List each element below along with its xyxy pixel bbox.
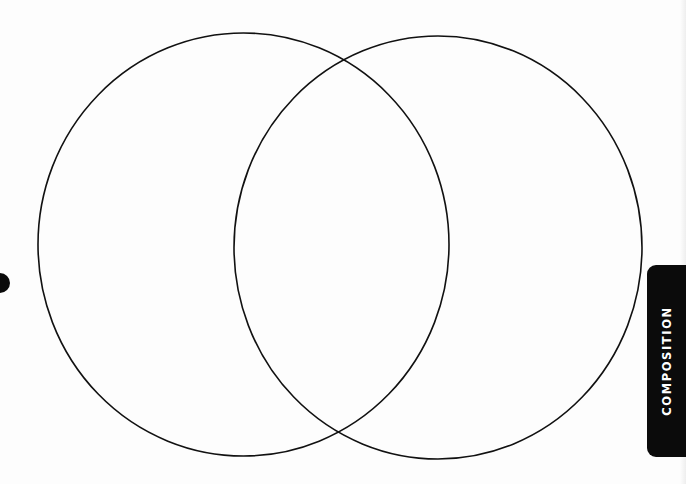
venn-diagram <box>0 0 686 484</box>
page-edge-shadow <box>680 0 686 484</box>
venn-right-circle <box>234 36 642 459</box>
worksheet-page: COMPOSITION <box>0 0 686 484</box>
venn-left-circle <box>38 33 449 456</box>
section-tab-label: COMPOSITION <box>660 306 674 416</box>
